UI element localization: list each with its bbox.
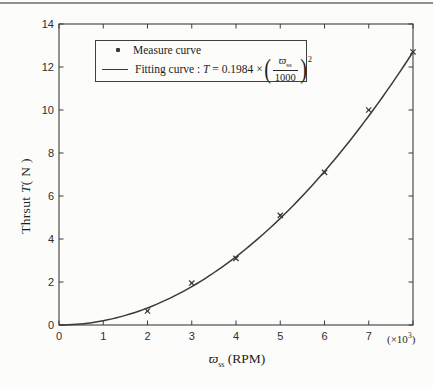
y-tick-label: 0 <box>22 320 54 331</box>
y-tick-label: 12 <box>22 62 54 73</box>
y-axis-title: Thrsut T( N ) <box>18 158 34 234</box>
fitting-formula: Fitting curve : T = 0.1984 ×(ϖss1000)2 <box>135 55 312 83</box>
formula-exponent: 2 <box>308 54 312 64</box>
figure-page: 0123456702468101214 Thrsut T( N ) ϖss (R… <box>0 0 433 387</box>
numerator-subscript: ss <box>286 61 291 69</box>
measure-point <box>189 280 194 285</box>
marker-dot <box>279 214 281 216</box>
x-tick-label: 3 <box>189 331 195 342</box>
x-tick-label: 1 <box>100 331 106 342</box>
measure-point <box>366 107 371 112</box>
x-tick-label: 0 <box>56 331 62 342</box>
x-tick-label: 6 <box>321 331 327 342</box>
x-tick-label: 5 <box>277 331 283 342</box>
y-title-text: Thrsut <box>18 193 33 234</box>
marker-dot <box>368 109 370 111</box>
fitting-equation: = 0.1984 × <box>209 63 262 75</box>
x-axis-title: ϖss (RPM) <box>209 351 266 369</box>
y-title-variable: T <box>18 185 33 193</box>
marker-dot <box>147 310 149 312</box>
fraction-numerator: ϖss <box>277 55 294 69</box>
fraction-denominator: 1000 <box>273 72 298 83</box>
fitting-line-icon <box>102 69 128 70</box>
close-paren: ) <box>300 57 307 81</box>
marker-dot <box>412 51 414 53</box>
y-tick-label: 10 <box>22 105 54 116</box>
fitting-label: Fitting curve : <box>135 63 203 75</box>
x-axis-scale-note: (×103) <box>387 331 415 345</box>
marker-dot <box>191 282 193 284</box>
x-title-symbol: ϖ <box>209 351 219 366</box>
legend-fitting-row: Fitting curve : T = 0.1984 ×(ϖss1000)2 <box>96 57 306 81</box>
fitting-curve <box>59 52 413 325</box>
formula-fraction: ϖss1000 <box>273 55 298 83</box>
x-scale-prefix: (×10 <box>387 333 408 345</box>
x-tick-label: 4 <box>233 331 239 342</box>
fraction-bar <box>273 70 298 71</box>
measure-marker-icon <box>116 48 120 52</box>
y-tick-label: 8 <box>22 148 54 159</box>
y-tick-label: 2 <box>22 277 54 288</box>
x-tick-label: 7 <box>366 331 372 342</box>
marker-dot <box>324 171 326 173</box>
open-paren: ( <box>264 57 271 81</box>
y-tick-label: 4 <box>22 234 54 245</box>
x-title-units: (RPM) <box>224 351 265 366</box>
x-scale-suffix: ) <box>412 333 416 345</box>
measure-point <box>145 308 150 313</box>
y-title-units: ( N ) <box>18 158 33 185</box>
marker-dot <box>235 257 237 259</box>
y-tick-label: 14 <box>22 19 54 30</box>
x-tick-label: 2 <box>144 331 150 342</box>
legend-box: Measure curve Fitting curve : T = 0.1984… <box>95 40 307 82</box>
measure-point <box>278 213 283 218</box>
